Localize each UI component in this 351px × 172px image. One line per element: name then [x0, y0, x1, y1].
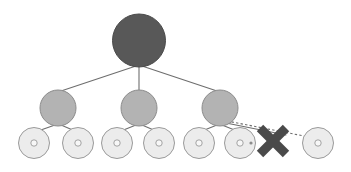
tree-diagram-svg — [0, 0, 351, 172]
leaf-node-center-ring-icon — [315, 140, 321, 146]
leaf-node[interactable] — [102, 128, 133, 159]
tree-edge — [142, 66, 217, 91]
leaf-node[interactable] — [303, 128, 334, 159]
internal-node[interactable] — [121, 90, 157, 126]
root-node[interactable] — [113, 14, 166, 67]
leaf-node-center-ring-icon — [75, 140, 81, 146]
leaf-node-center-ring-icon — [237, 140, 243, 146]
leaf-node-center-ring-icon — [156, 140, 162, 146]
leaf-node[interactable] — [144, 128, 175, 159]
internal-node[interactable] — [202, 90, 238, 126]
leaf-node[interactable] — [184, 128, 215, 159]
tree-edge — [61, 66, 136, 91]
internal-node-layer — [40, 90, 238, 126]
leaf-node[interactable] — [63, 128, 94, 159]
root-node-layer — [113, 14, 166, 67]
internal-node[interactable] — [40, 90, 76, 126]
edge-layer — [38, 66, 286, 135]
leaf-node[interactable] — [19, 128, 50, 159]
leaf-node-center-ring-icon — [114, 140, 120, 146]
tree-diagram-canvas — [0, 0, 351, 172]
leaf-node-center-ring-icon — [196, 140, 202, 146]
leaf-node-center-ring-icon — [31, 140, 37, 146]
separator-dot-icon — [249, 141, 252, 144]
